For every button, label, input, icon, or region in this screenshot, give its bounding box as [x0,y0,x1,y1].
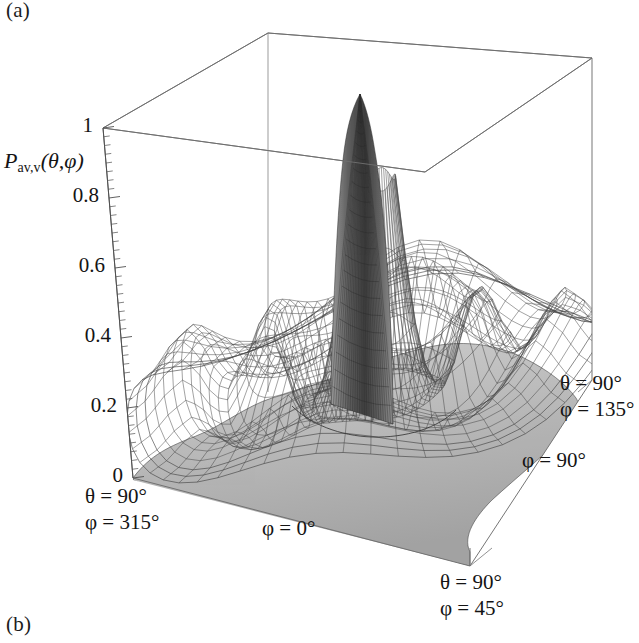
z-axis-title: Pav,v(θ,φ) [4,148,84,176]
corner-annotation-rear-right: θ = 90° φ = 135° [560,371,634,422]
z-axis-minor-tick [104,136,110,137]
z-axis-minor-tick [108,188,114,189]
z-tick-label-0-4: 0.4 [59,323,111,348]
panel-label-a: (a) [6,0,30,23]
corner-front-phi: φ = 0° [262,516,315,542]
z-axis-minor-tick [131,451,137,452]
corner-right-phi: φ = 90° [522,448,586,474]
corner-annotation-front: φ = 0° [262,516,315,542]
z-axis-major-tick [109,197,120,199]
z-axis-minor-tick [119,311,125,312]
corner-front-left-phi: φ = 315° [85,510,159,536]
z-axis-minor-tick [129,433,135,434]
corner-front-right-phi: φ = 45° [440,596,504,622]
z-axis-minor-tick [106,162,112,163]
main-lobe [331,94,393,424]
corner-annotation-front-left: θ = 90° φ = 315° [85,484,159,535]
mesh-spoke [134,178,353,402]
z-axis-minor-tick [129,425,135,426]
z-axis-title-subscript: av,v [17,160,40,175]
z-axis-major-tick [115,267,126,269]
z-tick-label-1: 1 [41,113,93,138]
z-axis-minor-tick [123,355,129,356]
z-axis-minor-tick [118,302,124,303]
z-axis-minor-tick [132,460,138,461]
z-axis-minor-tick [105,153,111,154]
z-axis-minor-tick [107,171,113,172]
corner-annotation-right: φ = 90° [522,448,586,474]
z-axis-minor-tick [117,285,123,286]
z-axis-minor-tick [122,346,128,347]
z-axis-minor-tick [114,258,120,259]
z-axis-minor-tick [108,180,114,181]
corner-annotation-front-right: θ = 90° φ = 45° [440,570,504,621]
z-tick-label-0-2: 0.2 [65,393,117,418]
z-axis-minor-tick [116,276,122,277]
mesh-spoke [127,184,352,417]
z-axis-minor-tick [125,381,131,382]
z-axis-title-arguments: (θ,φ) [41,148,84,173]
z-axis-minor-tick [113,241,119,242]
z-axis-minor-tick [112,232,118,233]
z-axis-minor-tick [105,145,111,146]
corner-rear-right-theta: θ = 90° [560,371,634,397]
z-axis-minor-tick [120,320,126,321]
corner-rear-right-phi: φ = 135° [560,397,634,423]
z-axis-minor-tick [128,416,134,417]
z-tick-label-0-8: 0.8 [47,183,99,208]
z-axis-minor-tick [126,390,132,391]
panel-label-b: (b) [6,612,31,637]
z-axis-minor-tick [120,328,126,329]
z-axis-major-tick [121,337,132,339]
z-axis-minor-tick [114,250,120,251]
z-axis-title-symbol: P [4,148,17,173]
z-axis-minor-tick [110,206,116,207]
corner-front-left-theta: θ = 90° [85,484,159,510]
surface-plot-3d [0,0,639,643]
z-axis-minor-tick [111,215,117,216]
z-axis-minor-tick [124,372,130,373]
figure-panel-a: (a) (b) Pav,v(θ,φ) 10.80.60.40.20 θ = 90… [0,0,639,643]
z-tick-label-0-6: 0.6 [53,253,105,278]
z-axis-minor-tick [111,223,117,224]
corner-front-right-theta: θ = 90° [440,570,504,596]
mesh-spoke [153,176,355,396]
z-axis-minor-tick [117,293,123,294]
z-axis-minor-tick [132,468,138,469]
z-axis-minor-tick [123,363,129,364]
